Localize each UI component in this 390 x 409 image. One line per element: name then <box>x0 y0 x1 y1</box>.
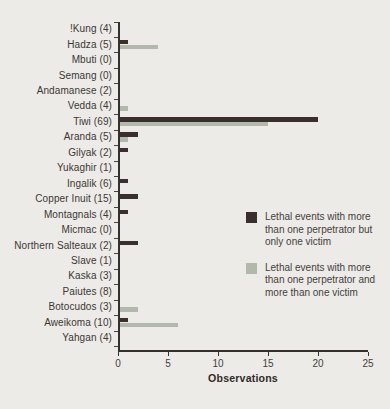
x-axis-tick <box>318 352 319 356</box>
category-label: Andamanese (2) <box>0 84 112 98</box>
y-axis-line <box>118 22 120 351</box>
category-label: Aranda (5) <box>0 130 112 144</box>
category-label: Semang (0) <box>0 69 112 83</box>
category-label: Slave (1) <box>0 254 112 268</box>
x-axis-title: Observations <box>128 372 358 384</box>
x-axis-tick <box>268 352 269 356</box>
legend-label: Lethal events with more than one perpetr… <box>265 262 377 300</box>
bar-dark <box>118 132 138 137</box>
legend-item: Lethal events with more than one perpetr… <box>246 262 378 300</box>
category-label: Botocudos (3) <box>0 300 112 314</box>
bar-light <box>118 323 178 328</box>
bar-dark <box>118 241 138 246</box>
category-label: !Kung (4) <box>0 22 112 36</box>
category-label: Hadza (5) <box>0 38 112 52</box>
legend-swatch-dark-icon <box>246 212 257 223</box>
legend-item: Lethal events with more than one perpetr… <box>246 211 378 249</box>
category-label: Micmac (0) <box>0 223 112 237</box>
category-label: Vedda (4) <box>0 99 112 113</box>
x-axis-tick <box>218 352 219 356</box>
category-label: Montagnals (4) <box>0 208 112 222</box>
x-axis-line <box>118 350 368 352</box>
x-tick-label: 5 <box>153 358 183 369</box>
category-label: Copper Inuit (15) <box>0 192 112 206</box>
x-axis-tick <box>368 352 369 356</box>
legend-label: Lethal events with more than one perpetr… <box>265 211 377 249</box>
bar-light <box>118 307 138 312</box>
bar-light <box>118 45 158 50</box>
category-label: Aweikoma (10) <box>0 316 112 330</box>
bar-light <box>118 122 268 127</box>
x-tick-label: 25 <box>353 358 383 369</box>
category-label: Paiutes (8) <box>0 285 112 299</box>
x-tick-label: 10 <box>203 358 233 369</box>
bar-chart-figure: !Kung (4)Hadza (5)Mbuti (0)Semang (0)And… <box>0 0 390 409</box>
x-tick-label: 15 <box>253 358 283 369</box>
category-label: Tiwi (69) <box>0 115 112 129</box>
category-label: Mbuti (0) <box>0 53 112 67</box>
plot-area: !Kung (4)Hadza (5)Mbuti (0)Semang (0)And… <box>0 0 390 409</box>
legend-swatch-light-icon <box>246 263 257 274</box>
category-label: Northern Salteaux (2) <box>0 239 112 253</box>
x-axis-tick <box>118 352 119 356</box>
category-label: Ingalik (6) <box>0 177 112 191</box>
x-tick-label: 20 <box>303 358 333 369</box>
category-label: Yahgan (4) <box>0 331 112 345</box>
category-label: Kaska (3) <box>0 269 112 283</box>
category-label: Gilyak (2) <box>0 146 112 160</box>
category-label: Yukaghir (1) <box>0 161 112 175</box>
legend: Lethal events with more than one perpetr… <box>246 211 378 299</box>
bar-dark <box>118 194 138 199</box>
x-axis-tick <box>168 352 169 356</box>
bar-dark <box>118 117 318 122</box>
x-tick-label: 0 <box>103 358 133 369</box>
